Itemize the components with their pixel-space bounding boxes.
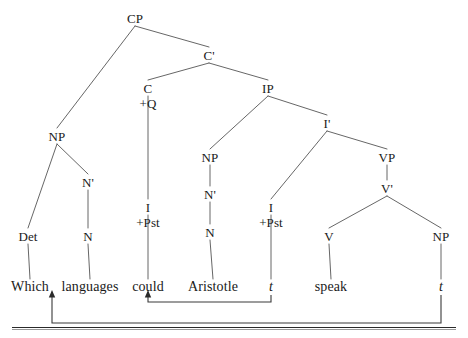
tree-node-vp: VP [379, 151, 396, 164]
tree-edge-ibar-i_ip [271, 131, 327, 199]
tree-node-i_ip_pst: +Pst [259, 216, 283, 229]
tree-node-np_wh: NP [49, 130, 66, 143]
movement-arrow-wh-movement [52, 295, 441, 323]
tree-edge-ibar-vp [327, 131, 387, 149]
tree-node-nbar_wh: N' [82, 176, 94, 189]
tree-node-w_t2: t [439, 280, 443, 294]
tree-node-c: C [144, 82, 153, 95]
tree-node-ibar: I' [324, 117, 331, 130]
tree-node-cbar: C' [203, 49, 214, 62]
tree-node-n_subj: N [205, 226, 215, 239]
tree-node-i_c: I [146, 201, 150, 214]
tree-node-i_c_pst: +Pst [136, 216, 160, 229]
movement-arrow-head-movement [148, 295, 271, 302]
tree-edge-n_subj-w_arist [210, 240, 213, 279]
tree-edge-vbar-np_obj [387, 196, 441, 228]
tree-node-cq: +Q [140, 97, 157, 110]
tree-edge-n_wh-w_langs [88, 244, 90, 279]
tree-edge-vbar-v [329, 196, 387, 228]
tree-edge-ip-ibar [268, 96, 327, 115]
tree-edge-cp-cbar [135, 26, 209, 47]
tree-node-w_t1: t [269, 280, 273, 294]
movement-arrow-layer [49, 290, 441, 323]
tree-node-np_obj: NP [433, 230, 450, 243]
tree-node-vbar: V' [381, 182, 393, 195]
tree-edge-np_wh-nbar_wh [57, 144, 88, 174]
tree-node-np_subj: NP [202, 151, 219, 164]
bottom-rule-shadow [12, 329, 456, 330]
tree-node-i_ip: I [269, 201, 273, 214]
tree-node-det: Det [18, 230, 37, 243]
tree-node-w_arist: Aristotle [188, 280, 238, 294]
tree-edge-cbar-c [148, 63, 209, 80]
tree-node-w_langs: languages [62, 280, 119, 294]
tree-node-n_wh: N [83, 230, 93, 243]
tree-node-v: V [324, 230, 334, 243]
movement-arrowhead-wh-movement [49, 290, 55, 298]
tree-edge-cbar-ip [209, 63, 268, 80]
tree-edge-cp-np_wh [57, 26, 135, 128]
bottom-rule [12, 327, 456, 328]
tree-edge-np_wh-det [28, 144, 57, 228]
tree-node-w_could: could [132, 280, 164, 294]
tree-edge-v-w_speak [329, 244, 331, 279]
tree-node-cp: CP [127, 12, 143, 25]
tree-node-w_which: Which [11, 280, 49, 294]
tree-node-ip: IP [262, 82, 274, 95]
tree-edge-det-w_which [28, 244, 30, 279]
tree-node-w_speak: speak [315, 280, 347, 294]
tree-node-nbar_subj: N' [204, 188, 216, 201]
tree-edge-ip-np_subj [210, 96, 268, 149]
syntax-tree-figure: CPC'C+QIPNPI'N'NPVPN'V'DetNI+PstNI+PstVN… [0, 0, 468, 338]
